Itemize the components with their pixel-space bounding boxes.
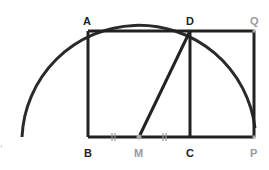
label-A: A xyxy=(83,15,91,27)
point-P xyxy=(253,136,256,139)
label-P: P xyxy=(250,147,257,159)
point-Q xyxy=(253,30,256,33)
arc xyxy=(22,25,255,137)
label-C: C xyxy=(186,147,194,159)
diagram-canvas: A D Q B M C P . xyxy=(0,0,269,170)
segment-MD xyxy=(139,31,190,137)
label-Q: Q xyxy=(250,15,259,27)
label-M: M xyxy=(134,147,143,159)
stray-mark: . xyxy=(0,138,3,149)
label-D: D xyxy=(186,15,194,27)
point-M xyxy=(137,135,142,140)
label-B: B xyxy=(84,147,92,159)
